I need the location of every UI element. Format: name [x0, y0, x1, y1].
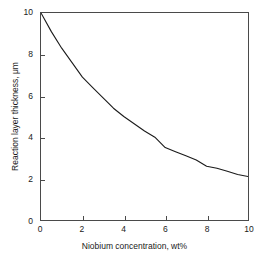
x-tick-label: 2 [79, 224, 84, 234]
x-tick-mark [83, 216, 84, 220]
y-axis-title: Reaction layer thickness, μm [8, 12, 22, 221]
plot-area [40, 12, 249, 221]
x-tick-label: 0 [38, 224, 43, 234]
y-tick-label-text: 8 [28, 49, 33, 59]
data-curve [41, 13, 248, 220]
x-tick-label: 8 [205, 224, 210, 234]
x-tick-mark [208, 216, 209, 220]
y-tick-label-text: 2 [28, 174, 33, 184]
figure: 0246810 0246810 Niobium concentration, w… [0, 0, 269, 263]
x-tick-label: 4 [121, 224, 126, 234]
x-tick-mark [166, 216, 167, 220]
x-tick-label: 6 [163, 224, 168, 234]
y-tick-mark [41, 138, 45, 139]
y-tick-label-text: 10 [24, 7, 33, 17]
x-axis-title: Niobium concentration, wt% [0, 241, 269, 252]
x-tick-mark [125, 216, 126, 220]
y-tick-label-text: 4 [28, 132, 33, 142]
y-tick-mark [41, 55, 45, 56]
y-tick-label-text: 6 [28, 91, 33, 101]
y-tick-mark [41, 180, 45, 181]
y-tick-mark [41, 97, 45, 98]
y-tick-label-text: 0 [28, 216, 33, 226]
x-tick-label: 10 [244, 224, 253, 234]
